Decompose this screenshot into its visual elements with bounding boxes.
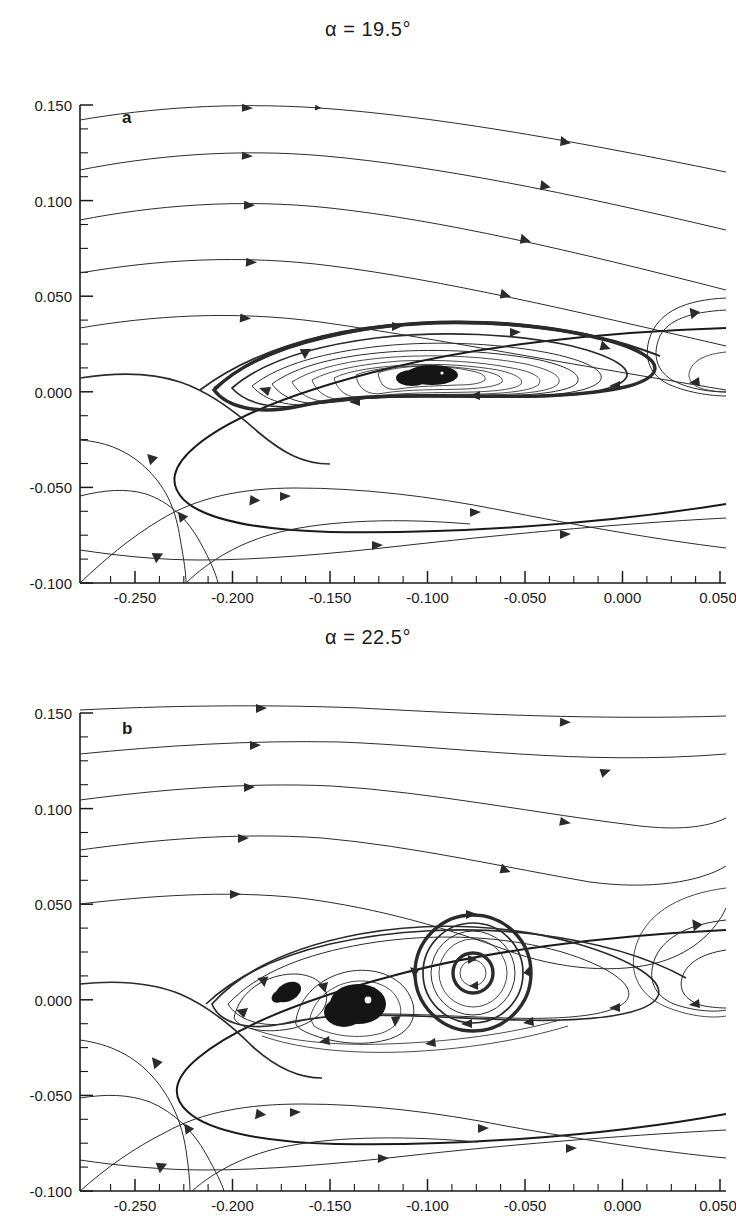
panel-b-streamlines-outer	[80, 704, 726, 969]
panel-a-ylabel-5: -0.100	[29, 575, 72, 592]
panel-b-x-ticks	[111, 1179, 720, 1191]
panel-a-x-ticks	[111, 571, 720, 583]
panel-a-axes: 0.150 0.100 0.050 0.000 -0.050 -0.100 -0…	[29, 97, 736, 605]
panel-a-title: α = 19.5°	[0, 18, 736, 41]
panel-b-xlabel-5: 0.000	[604, 1197, 642, 1213]
panel-b-xlabel-1: -0.200	[211, 1197, 254, 1213]
panel-b-y-ticks	[80, 713, 93, 1191]
panel-a-xlabel-5: 0.000	[604, 589, 642, 605]
panel-b-svg: 0.150 0.100 0.050 0.000 -0.050 -0.100 -0…	[0, 668, 736, 1213]
panel-a-vortex-loops	[214, 322, 655, 410]
panel-a-xlabel-2: -0.150	[309, 589, 352, 605]
panel-b-ylabel-0: 0.150	[34, 705, 72, 722]
panel-b-xlabel-0: -0.250	[114, 1197, 157, 1213]
panel-b-letter: b	[122, 719, 132, 738]
panel-b-upstream-vortex	[234, 973, 327, 1031]
panel-b-lower-streamlines	[80, 1040, 726, 1191]
panel-a-ylabel-3: 0.000	[34, 384, 72, 401]
panel-a-xlabel-4: -0.050	[504, 589, 547, 605]
panel-a-svg: 0.150 0.100 0.050 0.000 -0.050 -0.100 -0…	[0, 60, 736, 605]
panel-b-vortex-system	[212, 910, 659, 1052]
panel-b: α = 22.5°	[0, 608, 736, 1219]
panel-a: α = 19.5°	[0, 0, 736, 610]
panel-b-xlabel-4: -0.050	[504, 1197, 547, 1213]
panel-a-letter: a	[122, 108, 132, 127]
figure-root: α = 19.5°	[0, 0, 736, 1219]
panel-b-ylabel-4: -0.050	[29, 1087, 72, 1104]
panel-a-xlabel-1: -0.200	[211, 589, 254, 605]
panel-a-xlabel-3: -0.100	[406, 589, 449, 605]
panel-b-title: α = 22.5°	[0, 626, 736, 649]
panel-b-ylabel-1: 0.100	[34, 801, 72, 818]
panel-b-ylabel-5: -0.100	[29, 1183, 72, 1200]
panel-b-ylabel-3: 0.000	[34, 992, 72, 1009]
panel-b-axes: 0.150 0.100 0.050 0.000 -0.050 -0.100 -0…	[29, 705, 736, 1213]
panel-a-plot: 0.150 0.100 0.050 0.000 -0.050 -0.100 -0…	[0, 60, 736, 605]
panel-b-xlabel-2: -0.150	[309, 1197, 352, 1213]
panel-a-ylabel-4: -0.050	[29, 479, 72, 496]
panel-a-xlabel-6: 0.050	[699, 589, 736, 605]
panel-a-ylabel-0: 0.150	[34, 97, 72, 114]
panel-a-xlabel-0: -0.250	[114, 589, 157, 605]
panel-b-xlabel-3: -0.100	[406, 1197, 449, 1213]
panel-b-main-vortex	[410, 910, 534, 1031]
panel-b-secondary-vortex	[296, 970, 414, 1043]
panel-a-ylabel-2: 0.050	[34, 288, 72, 305]
panel-a-ylabel-1: 0.100	[34, 193, 72, 210]
panel-a-y-ticks	[80, 105, 93, 583]
panel-b-xlabel-6: 0.050	[699, 1197, 736, 1213]
panel-a-lower-streamlines	[80, 440, 726, 583]
panel-b-ylabel-2: 0.050	[34, 896, 72, 913]
panel-b-plot: 0.150 0.100 0.050 0.000 -0.050 -0.100 -0…	[0, 668, 736, 1213]
